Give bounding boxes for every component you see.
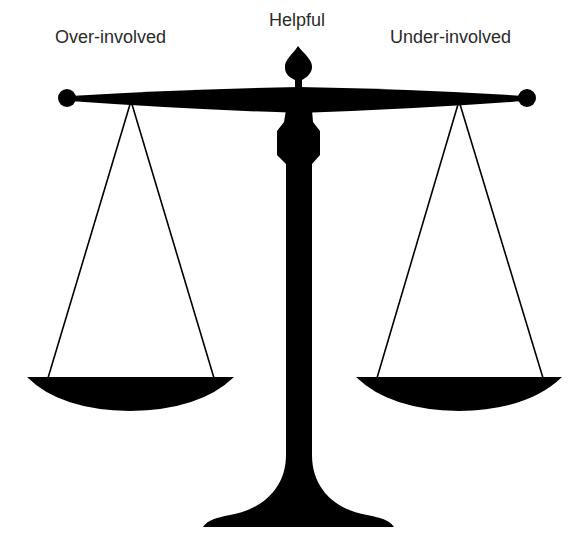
left-beam-end-ball — [58, 89, 76, 107]
right-beam-end-ball — [518, 89, 536, 107]
left-pan — [27, 377, 234, 411]
scale-collar — [277, 110, 320, 164]
scale-base — [203, 455, 394, 527]
helpful-label: Helpful — [269, 11, 325, 29]
under-involved-label: Under-involved — [390, 28, 511, 46]
scale-graphic — [0, 0, 583, 550]
scale-finial — [285, 46, 312, 90]
balance-scale-diagram: Over-involved Helpful Under-involved — [0, 0, 583, 550]
scale-pillar — [286, 160, 312, 460]
right-pan-strings — [377, 101, 543, 378]
right-pan — [356, 377, 562, 411]
left-pan-strings — [48, 101, 214, 378]
over-involved-label: Over-involved — [55, 28, 166, 46]
